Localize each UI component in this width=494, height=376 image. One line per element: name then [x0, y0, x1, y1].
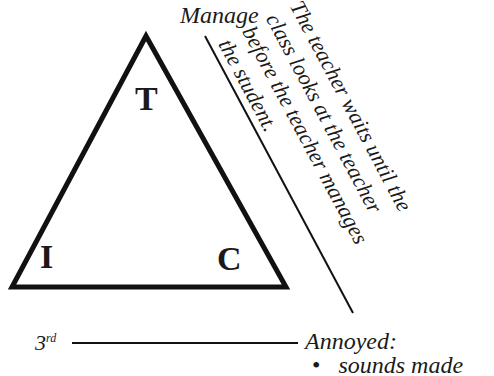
bullet-icon: •: [312, 352, 320, 376]
vertex-c-label: C: [217, 240, 242, 278]
outcome-item-text: sounds made: [338, 352, 463, 376]
level-suffix: rd: [46, 331, 56, 345]
vertex-t-label: T: [135, 80, 158, 118]
outcome-label: Annoyed:: [305, 328, 397, 355]
outcome-item: •sounds made: [312, 352, 463, 376]
manage-label: Manage: [180, 2, 259, 29]
vertex-i-label: I: [40, 238, 53, 276]
level-number: 3: [35, 330, 46, 355]
level-label: 3rd: [35, 330, 56, 356]
